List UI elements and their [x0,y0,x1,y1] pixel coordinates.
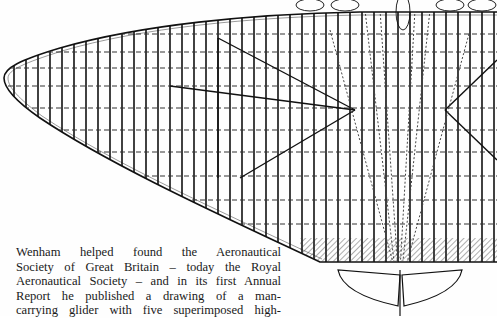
caption-line: Society of Great Britain – today the Roy… [16,260,281,275]
caption-line: Aeronautical Society – and in its first … [16,274,281,289]
center-struts [330,10,470,270]
caption-line: Wenham helped found the Aeronautical [16,245,281,260]
caption-line: carrying glider with five superimposed h… [16,303,281,318]
caption-line: Report he published a drawing of a man- [16,289,281,304]
caption-paragraph: Wenham helped found the Aeronautical Soc… [16,245,281,318]
tail-fins [338,270,462,316]
